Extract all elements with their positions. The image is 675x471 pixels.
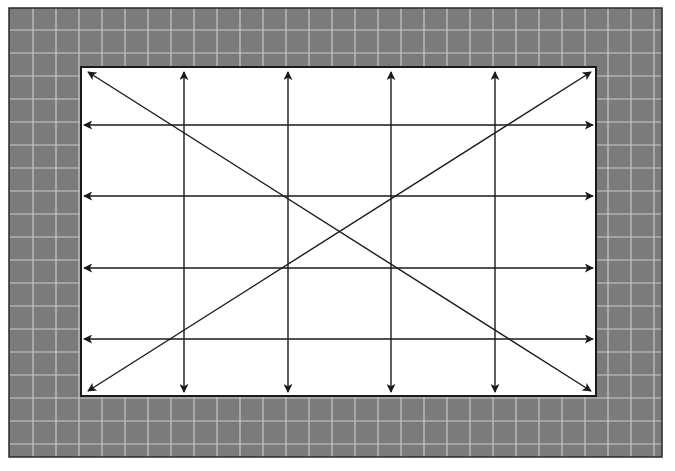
composition-grid-diagram — [0, 0, 675, 471]
cut-off-caption — [10, 463, 660, 471]
